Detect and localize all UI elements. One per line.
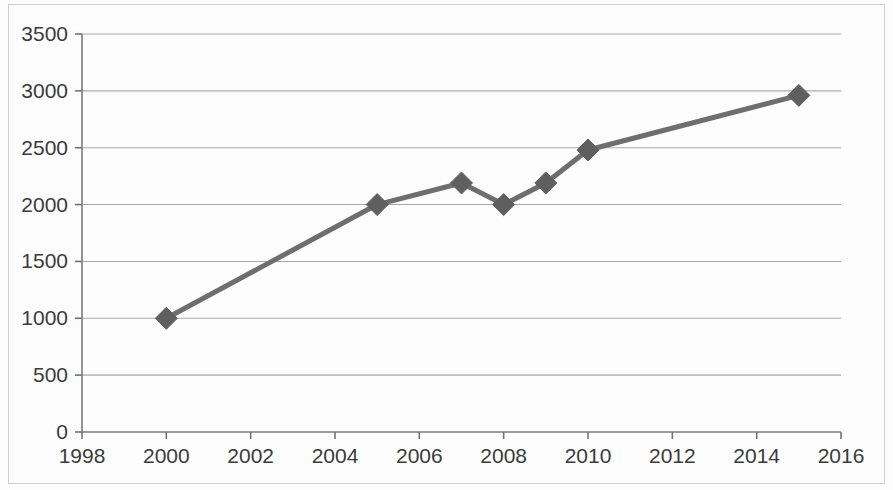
- y-tick-label-2000: 2000: [21, 193, 68, 216]
- x-tick-label-2012: 2012: [649, 444, 696, 467]
- data-point-marker-2000: [155, 307, 177, 329]
- y-tick-label-2500: 2500: [21, 136, 68, 159]
- y-tick-label-1000: 1000: [21, 306, 68, 329]
- y-axis-tick-labels: 0500100015002000250030003500: [21, 22, 68, 443]
- x-tick-label-2010: 2010: [565, 444, 612, 467]
- gridlines-horizontal: [82, 34, 841, 375]
- x-tick-label-2004: 2004: [312, 444, 359, 467]
- x-tick-label-2000: 2000: [143, 444, 190, 467]
- x-axis-tick-labels: 1998200020022004200620082010201220142016: [59, 444, 865, 467]
- x-tick-label-2002: 2002: [227, 444, 274, 467]
- x-tick-label-2006: 2006: [396, 444, 443, 467]
- chart-figure: 0500100015002000250030003500 19982000200…: [0, 0, 893, 490]
- y-tick-label-0: 0: [56, 420, 68, 443]
- y-tick-label-500: 500: [33, 363, 68, 386]
- data-point-markers: [155, 84, 810, 329]
- data-point-marker-2015: [788, 84, 810, 106]
- y-tick-label-3000: 3000: [21, 79, 68, 102]
- x-tick-label-2008: 2008: [480, 444, 527, 467]
- x-tick-label-1998: 1998: [59, 444, 106, 467]
- y-axis-ticks: [75, 34, 82, 432]
- data-point-marker-2005: [366, 194, 388, 216]
- x-tick-label-2014: 2014: [733, 444, 780, 467]
- data-point-marker-2008: [493, 194, 515, 216]
- line-chart-plot: 0500100015002000250030003500 19982000200…: [0, 0, 893, 490]
- x-tick-label-2016: 2016: [818, 444, 865, 467]
- y-tick-label-3500: 3500: [21, 22, 68, 45]
- data-series-line: [166, 95, 799, 318]
- y-tick-label-1500: 1500: [21, 249, 68, 272]
- data-point-marker-2007: [451, 172, 473, 194]
- x-axis-ticks: [82, 432, 841, 439]
